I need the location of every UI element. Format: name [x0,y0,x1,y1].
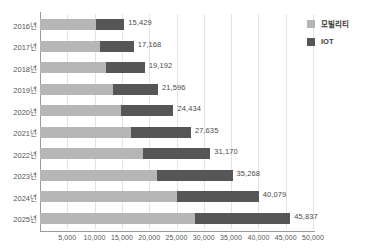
bar-value-label: 19,192 [149,61,173,70]
bar-segment-iot[interactable] [121,105,173,116]
y-axis-tick-label: 2022년 [3,149,37,160]
y-axis-tick-label: 2021년 [3,127,37,138]
bar-segment-iot[interactable] [195,213,290,224]
bar-segment-iot[interactable] [143,148,210,159]
bar-row: 24,434 [40,100,313,122]
x-axis-tick-label: 40,000 [247,234,269,241]
stacked-bar[interactable] [40,84,158,95]
bar-segment-iot[interactable] [96,19,124,30]
x-axis-tick-label: 10,000 [84,234,106,241]
bar-value-label: 27,635 [195,126,219,135]
bar-segment-mobility[interactable] [40,84,113,95]
bar-value-label: 24,434 [177,104,201,113]
stacked-bar[interactable] [40,170,233,181]
legend-swatch-icon [307,20,315,28]
y-axis-tick-label: 2025년 [3,213,37,224]
chart-legend: 모빌리티IOT [307,19,371,55]
y-axis-tick-label: 2018년 [3,63,37,74]
bar-segment-mobility[interactable] [40,191,177,202]
stacked-bar[interactable] [40,127,191,138]
bar-row: 17,168 [40,36,313,58]
bar-row: 21,596 [40,79,313,101]
plot-area: 15,42917,16819,19221,59624,43427,63531,1… [40,14,313,229]
y-axis-tick-label: 2020년 [3,106,37,117]
y-axis-tick-label: 2019년 [3,84,37,95]
bar-segment-mobility[interactable] [40,170,157,181]
bar-segment-iot[interactable] [177,191,259,202]
bar-segment-mobility[interactable] [40,213,195,224]
bar-row: 40,079 [40,186,313,208]
x-axis-line [40,231,315,232]
y-axis-tick-label: 2024년 [3,192,37,203]
x-axis-tick-label: 15,000 [111,234,133,241]
x-axis-tick-label: 45,000 [275,234,297,241]
y-axis-tick-label: 2023년 [3,170,37,181]
bar-segment-mobility[interactable] [40,19,96,30]
bar-segment-mobility[interactable] [40,41,100,52]
x-axis-tick-label: 20,000 [138,234,160,241]
bar-value-label: 45,837 [294,212,318,221]
bar-row: 35,268 [40,165,313,187]
bar-segment-mobility[interactable] [40,148,143,159]
bar-row: 19,192 [40,57,313,79]
bar-segment-mobility[interactable] [40,62,106,73]
bar-segment-mobility[interactable] [40,105,121,116]
bar-row: 45,837 [40,208,313,230]
bar-value-label: 21,596 [162,83,186,92]
bar-segment-iot[interactable] [131,127,191,138]
x-axis-tick-label: 5,000 [58,234,76,241]
bar-value-label: 15,429 [128,18,152,27]
bar-row: 31,170 [40,143,313,165]
legend-item[interactable]: IOT [307,37,371,46]
bar-row: 15,429 [40,14,313,36]
stacked-bar[interactable] [40,191,259,202]
x-axis-tick-label: 30,000 [193,234,215,241]
bar-row: 27,635 [40,122,313,144]
stacked-bar-chart: 15,42917,16819,19221,59624,43427,63531,1… [0,0,373,248]
bar-value-label: 35,268 [237,169,261,178]
bar-segment-mobility[interactable] [40,127,131,138]
legend-label: IOT [321,37,334,46]
stacked-bar[interactable] [40,41,134,52]
bar-segment-iot[interactable] [113,84,158,95]
x-axis-tick-label: 25,000 [165,234,187,241]
stacked-bar[interactable] [40,19,124,30]
x-axis-tick-label: 50,000 [302,234,324,241]
x-axis-tick-label: 35,000 [220,234,242,241]
stacked-bar[interactable] [40,62,145,73]
bar-value-label: 40,079 [263,190,287,199]
bar-value-label: 31,170 [214,147,238,156]
bar-segment-iot[interactable] [106,62,145,73]
stacked-bar[interactable] [40,213,290,224]
bar-segment-iot[interactable] [157,170,232,181]
bar-value-label: 17,168 [138,40,162,49]
y-axis-tick-label: 2017년 [3,41,37,52]
y-axis-tick-label: 2016년 [3,20,37,31]
stacked-bar[interactable] [40,105,173,116]
stacked-bar[interactable] [40,148,210,159]
legend-swatch-icon [307,38,315,46]
bar-segment-iot[interactable] [100,41,134,52]
legend-label: 모빌리티 [321,18,349,29]
legend-item[interactable]: 모빌리티 [307,19,371,28]
